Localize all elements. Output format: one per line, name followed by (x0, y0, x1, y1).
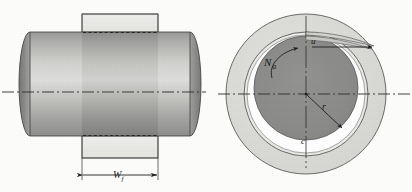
axial-section-view: W f (2, 14, 206, 183)
journal-center-point (305, 93, 308, 96)
surface-velocity-label: u (311, 36, 316, 46)
rotational-speed-symbol: N (263, 56, 272, 68)
bearing-width-label: W f (113, 169, 125, 183)
journal-radius-label: r (322, 102, 326, 112)
shaft-right-endcap (190, 32, 201, 136)
figure-canvas: W f u (0, 0, 412, 192)
radial-section-view: u N a r c (218, 14, 412, 174)
bearing-block-upper (82, 14, 158, 32)
bearing-width-subscript: f (122, 175, 125, 183)
bearing-block-lower (82, 136, 158, 158)
rotational-speed-subscript: a (273, 62, 277, 71)
journal-bearing-figure: W f u (0, 0, 412, 192)
radial-clearance-label: c (301, 136, 305, 146)
shaft-left-endcap (19, 32, 30, 136)
shaft-inside-bearing-band (82, 32, 158, 136)
